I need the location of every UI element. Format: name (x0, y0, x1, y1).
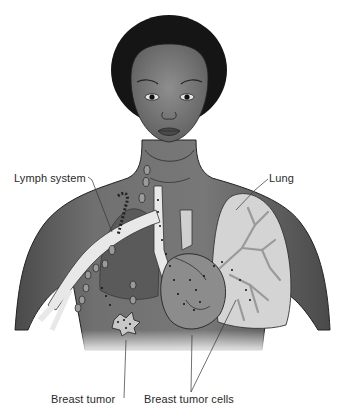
heart (161, 254, 226, 329)
head (111, 15, 227, 142)
label-lymph-system: Lymph system (14, 173, 86, 184)
anatomy-illustration (0, 0, 343, 412)
label-breast-tumor: Breast tumor (51, 394, 115, 405)
label-breast-tumor-cells: Breast tumor cells (144, 394, 234, 405)
label-lung: Lung (269, 173, 294, 184)
